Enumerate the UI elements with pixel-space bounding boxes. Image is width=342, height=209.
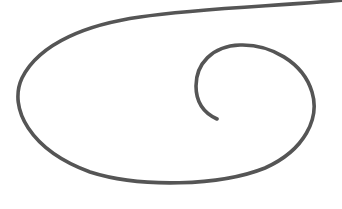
spiral-drawing <box>0 0 342 209</box>
spiral-curve <box>18 0 342 183</box>
